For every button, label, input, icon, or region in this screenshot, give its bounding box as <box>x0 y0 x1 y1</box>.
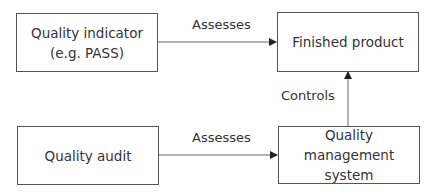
node-quality-indicator: Quality indicator (e.g. PASS) <box>16 13 158 72</box>
node-quality-audit: Quality audit <box>17 126 159 185</box>
node-quality-management-system: Quality management system <box>278 126 420 184</box>
node-label-line: Finished product <box>292 32 404 52</box>
node-label-line: Quality management <box>279 125 419 165</box>
edge-label-assesses-top: Assesses <box>192 17 251 32</box>
node-label-line: Quality audit <box>45 146 132 166</box>
node-label-line: Quality indicator <box>31 23 143 43</box>
edge-label-assesses-bottom: Assesses <box>192 130 251 145</box>
node-label-line: system <box>279 165 419 185</box>
edge-label-controls: Controls <box>281 88 335 103</box>
node-finished-product: Finished product <box>277 12 419 72</box>
node-label-line: (e.g. PASS) <box>31 43 143 63</box>
